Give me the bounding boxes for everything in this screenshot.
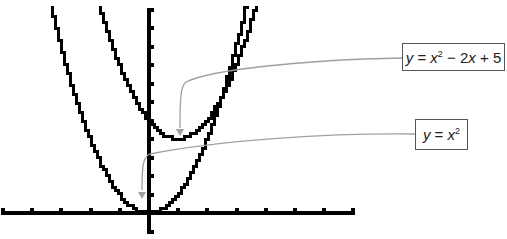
equation-label-shifted-parabola: y = x2 − 2x + 5 [402,43,505,71]
curve-segment [144,111,147,120]
curve-segment [246,6,249,9]
curve-segment [192,165,195,174]
curve-segment [162,207,165,210]
curve-segment [102,12,105,24]
x-tick [235,208,239,212]
label-term: − 2 [443,49,468,66]
curve-segment [99,156,102,168]
y-tick [150,137,154,141]
y-tick [150,174,154,178]
curve-segment [162,132,165,138]
curve-segment [87,129,90,138]
curve-segment [189,132,192,138]
curve-segment [78,102,81,114]
label-var-x: x [448,126,456,143]
curve-segment [108,174,111,183]
y-tick [150,26,154,30]
curve-segment [210,111,213,120]
curve-segment [213,105,216,114]
curve-segment [234,42,237,57]
curve-shifted-parabola [99,6,258,141]
curve-segment [72,84,75,96]
curve-segment [210,123,213,135]
axis-ticks [1,8,355,234]
curve-segment [168,201,171,207]
curve-segment [141,108,144,114]
curve-segment [204,138,207,150]
curve-segment [51,6,54,18]
y-tick [150,156,154,160]
curve-segment [132,204,135,210]
curve-segment [138,102,141,111]
curve-segment [129,84,132,93]
curve-segment [216,102,219,108]
equation-label-basic-parabola: y = x2 [415,119,468,150]
curve-segment [237,33,240,45]
x-tick [322,208,326,212]
arrowhead-icon [138,192,146,199]
curve-segment [201,147,204,156]
x-tick [205,208,209,212]
label-var-x: x [430,49,438,66]
curve-segment [168,135,171,138]
curve-segment [177,138,180,141]
curves [51,6,258,213]
callouts [138,58,415,199]
curve-segment [189,171,192,180]
curve-segment [114,186,117,192]
x-tick [89,208,93,212]
curve-segment [84,120,87,132]
curve-segment [135,207,138,213]
curve-segment [57,27,60,42]
curve-segment [147,117,150,123]
curve-segment [231,54,234,69]
curve-segment [123,72,126,81]
curve-segment [105,168,108,177]
curve-segment [105,21,108,33]
axes [1,8,355,234]
curve-segment [252,9,255,21]
curve-segment [96,150,99,159]
callout-line-basic-parabola [142,134,415,190]
curve-segment [120,63,123,75]
curve-segment [237,54,240,66]
curve-segment [126,201,129,207]
curve-segment [249,18,252,33]
curve-segment [132,90,135,99]
curve-segment [213,114,216,126]
label-constant: + 5 [476,49,501,66]
curve-segment [156,126,159,132]
curve-segment [201,123,204,129]
curve-segment [195,159,198,168]
curve-segment [240,45,243,57]
curve-segment [186,135,189,138]
curve-segment [246,30,249,42]
curve-segment [198,153,201,162]
curve-segment [171,198,174,204]
curve-segment [60,39,63,54]
curve-segment [63,51,66,66]
curve-segment [171,135,174,141]
curve-segment [135,96,138,105]
curve-segment [174,138,177,141]
label-equals: = [413,49,430,66]
curve-segment [66,63,69,75]
curve-segment [183,135,186,141]
curve-segment [153,123,156,129]
curve-segment [69,72,72,87]
y-tick [150,100,154,104]
curve-segment [195,129,198,135]
curve-segment [99,6,102,15]
curve-segment [243,39,246,48]
x-tick [293,208,297,212]
arrowhead-icon [176,129,184,136]
curve-segment [90,135,93,147]
curve-segment [138,210,141,213]
curve-segment [111,180,114,189]
curve-segment [123,198,126,204]
curve-segment [156,210,159,213]
curve-segment [129,204,132,207]
curve-segment [228,66,231,78]
curve-segment [177,192,180,198]
x-tick [59,208,63,212]
